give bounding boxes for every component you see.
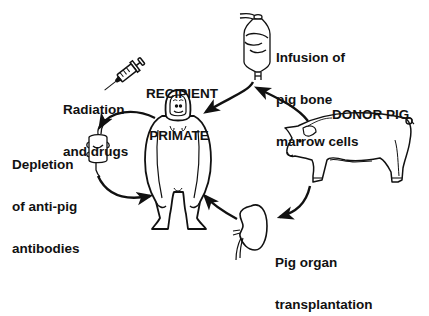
arrow-kidney-to-primate	[205, 196, 237, 219]
step-infusion-label: Infusion of pig bone marrow cells	[276, 23, 359, 177]
step-label-line: marrow cells	[276, 135, 359, 149]
step-transplant-label: Pig organ transplantation	[275, 228, 373, 316]
step-label-line: pig bone	[276, 93, 359, 107]
kidney-icon	[233, 205, 267, 260]
iv-bag-icon	[240, 14, 270, 80]
step-label-line: transplantation	[275, 298, 373, 312]
arrow-donor-to-kidney	[280, 186, 310, 217]
step-label-line: of anti-pig	[12, 200, 80, 214]
step-depletion-label: Depletion of anti-pig antibodies	[12, 130, 80, 284]
step-label-line: Radiation	[63, 103, 128, 117]
step-label-line: Pig organ	[275, 256, 373, 270]
recipient-title-line: RECIPIENT	[146, 87, 212, 101]
recipient-primate-title: RECIPIENT PRIMATE	[146, 59, 212, 171]
step-label-line: antibodies	[12, 242, 80, 256]
recipient-title-line: PRIMATE	[146, 129, 212, 143]
step-label-line: Depletion	[12, 158, 80, 172]
step-label-line: Infusion of	[276, 51, 359, 65]
